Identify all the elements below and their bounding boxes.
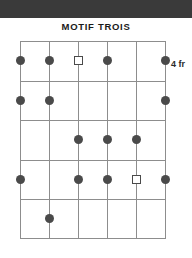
marker-dot-s3-f4 xyxy=(74,175,83,184)
marker-dot-s4-f4 xyxy=(103,175,112,184)
marker-dot-s1-f2 xyxy=(16,96,25,105)
marker-square-s3-f1 xyxy=(74,56,83,65)
marker-dot-s5-f3 xyxy=(132,135,141,144)
marker-square-s5-f4 xyxy=(132,175,141,184)
marker-dot-s3-f3 xyxy=(74,135,83,144)
chord-diagram-page: MOTIF TROIS 4 fr xyxy=(0,0,192,258)
marker-dot-s2-f2 xyxy=(45,96,54,105)
page-title: MOTIF TROIS xyxy=(0,21,192,32)
fret-line-1 xyxy=(20,81,166,82)
fret-line-0 xyxy=(20,41,166,42)
string-line-6 xyxy=(165,41,166,238)
fret-line-2 xyxy=(20,120,166,121)
marker-dot-s6-f4 xyxy=(161,175,170,184)
marker-dot-s2-f1 xyxy=(45,56,54,65)
marker-dot-s4-f1 xyxy=(103,56,112,65)
fret-line-5 xyxy=(20,238,166,239)
marker-dot-s1-f1 xyxy=(16,56,25,65)
marker-dot-s4-f3 xyxy=(103,135,112,144)
marker-dot-s6-f1 xyxy=(161,56,170,65)
top-dark-band xyxy=(0,0,192,18)
string-line-2 xyxy=(49,41,50,238)
string-line-1 xyxy=(20,41,21,238)
marker-dot-s6-f2 xyxy=(161,96,170,105)
marker-dot-s1-f4 xyxy=(16,175,25,184)
fretboard-diagram xyxy=(20,41,166,238)
fret-line-4 xyxy=(20,199,166,200)
fret-position-label: 4 fr xyxy=(171,59,185,69)
fret-line-3 xyxy=(20,160,166,161)
marker-dot-s2-f5 xyxy=(45,214,54,223)
